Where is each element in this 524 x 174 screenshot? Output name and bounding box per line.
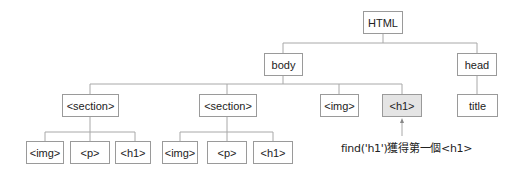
node-img-section-2: <img> <box>162 141 198 164</box>
node-section-1: <section> <box>62 94 119 117</box>
node-p-section-2: <p> <box>207 141 247 164</box>
node-section-2: <section> <box>199 94 257 117</box>
node-body: body <box>264 53 303 76</box>
node-head: head <box>457 53 497 76</box>
find-annotation: find('h1')獲得第一個<h1> <box>341 139 472 155</box>
node-img-body: <img> <box>320 94 359 117</box>
node-h1-section-1: <h1> <box>115 141 151 164</box>
node-title: title <box>457 94 498 117</box>
node-html: HTML <box>363 11 403 34</box>
arrow-head-icon <box>400 118 404 123</box>
node-img-section-1: <img> <box>26 141 64 164</box>
node-h1-section-2: <h1> <box>253 141 293 164</box>
node-h1-highlighted: <h1> <box>382 94 422 117</box>
node-p-section-1: <p> <box>70 141 110 164</box>
